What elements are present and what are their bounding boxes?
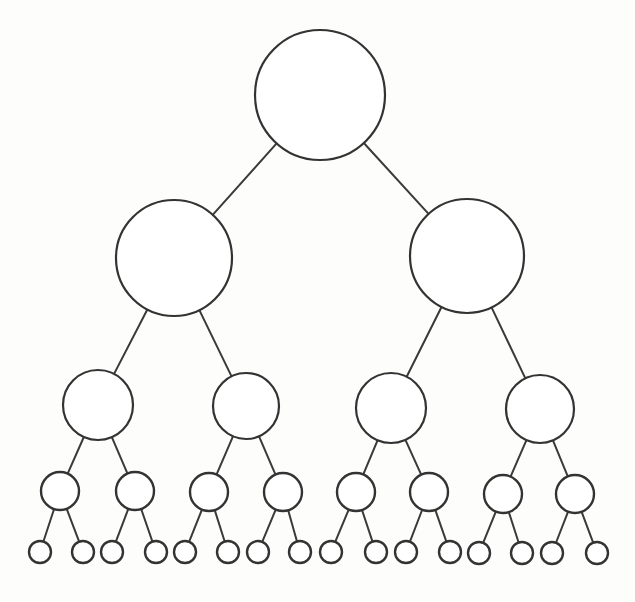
tree-nodes-group [29, 30, 608, 564]
tree-node[interactable] [116, 472, 154, 510]
tree-node-leaf[interactable] [468, 542, 490, 564]
tree-node[interactable] [63, 370, 133, 440]
tree-node-leaf[interactable] [320, 541, 342, 563]
tree-edge [43, 509, 54, 542]
tree-edge [68, 437, 84, 474]
tree-node[interactable] [41, 472, 79, 510]
tree-node-leaf[interactable] [101, 541, 123, 563]
tree-edge [435, 510, 446, 542]
tree-node-leaf[interactable] [72, 541, 94, 563]
tree-node-leaf[interactable] [289, 541, 311, 563]
tree-node-root[interactable] [255, 30, 385, 160]
tree-edge [556, 512, 568, 543]
tree-node-leaf[interactable] [365, 541, 387, 563]
tree-node-leaf[interactable] [174, 541, 196, 563]
tree-edge [141, 509, 152, 542]
tree-edge [553, 440, 568, 476]
tree-edge [405, 440, 421, 475]
tree-edge [483, 512, 496, 543]
tree-node-leaf[interactable] [511, 542, 533, 564]
tree-node[interactable] [556, 475, 594, 513]
tree-edge [189, 510, 202, 542]
tree-edge [112, 437, 128, 473]
tree-edge [335, 510, 348, 542]
tree-edge [509, 512, 519, 542]
tree-node-leaf[interactable] [29, 541, 51, 563]
tree-node[interactable] [506, 375, 574, 443]
tree-edge [492, 307, 526, 378]
tree-node[interactable] [337, 473, 375, 511]
binary-tree-diagram [0, 0, 635, 602]
tree-edge [259, 436, 275, 474]
tree-edge [511, 440, 527, 476]
tree-edge [67, 509, 79, 542]
tree-node[interactable] [264, 473, 302, 511]
tree-node[interactable] [116, 200, 232, 316]
tree-edge [116, 509, 128, 542]
tree-edge [407, 307, 442, 377]
tree-node[interactable] [410, 473, 448, 511]
tree-node-leaf[interactable] [586, 542, 608, 564]
tree-edge [364, 143, 429, 214]
tree-edge [217, 436, 233, 474]
tree-edge [363, 440, 377, 474]
tree-node-leaf[interactable] [439, 541, 461, 563]
tree-edge [288, 510, 297, 541]
tree-node-leaf[interactable] [145, 541, 167, 563]
tree-edge [362, 510, 373, 542]
tree-edge [114, 310, 147, 374]
tree-node-leaf[interactable] [247, 541, 269, 563]
tree-node-leaf[interactable] [217, 541, 239, 563]
tree-edge [215, 510, 225, 541]
tree-edge [199, 310, 231, 376]
tree-node[interactable] [213, 373, 279, 439]
tree-canvas [0, 0, 635, 602]
tree-node[interactable] [410, 199, 524, 313]
tree-edge [410, 510, 422, 542]
tree-edge [213, 143, 277, 214]
tree-edge [582, 512, 594, 543]
tree-node[interactable] [484, 475, 522, 513]
tree-node-leaf[interactable] [541, 542, 563, 564]
tree-edge [262, 510, 275, 542]
tree-node[interactable] [356, 373, 426, 443]
tree-node[interactable] [190, 473, 228, 511]
tree-node-leaf[interactable] [395, 541, 417, 563]
